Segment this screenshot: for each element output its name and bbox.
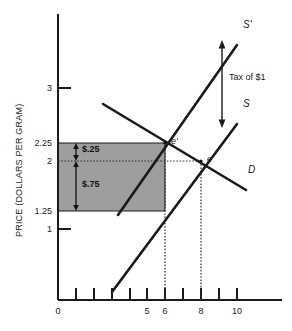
consumer-burden-label: $.25 [82,144,100,154]
y-tick-label-1: 1 [18,224,52,234]
x-tick-label-8: 8 [191,306,211,316]
x-tick-label-5: 5 [137,306,157,316]
tax-annotation-label: Tax of $1 [229,72,266,82]
point-label-e: e [207,154,212,164]
supply-demand-tax-chart: PRICE (DOLLARS PER GRAM) 3 2.25 2 1.25 1… [0,0,292,331]
y-tick-label-1-25: 1.25 [18,206,52,216]
supply-after-tax-curve [118,45,237,215]
y-tick-label-2-25: 2.25 [18,138,52,148]
tax-arrow [219,40,226,128]
tax-revenue-rectangle [59,143,166,211]
x-tick-label-0: 0 [48,306,68,316]
equilibrium-point-e [199,159,202,162]
curve-label-supply: S [243,98,250,109]
y-tick-label-3: 3 [18,83,52,93]
producer-burden-label: $.75 [82,179,100,189]
y-tick-label-2: 2 [18,156,52,166]
curve-label-demand: D [248,164,255,175]
curve-label-supply-after-tax: S' [243,19,252,30]
y-axis-title: PRICE (DOLLARS PER GRAM) [14,104,24,237]
x-tick-label-10: 10 [227,306,247,316]
equilibrium-point-e-prime [163,141,166,144]
point-label-e-prime: e' [171,136,178,146]
x-tick-label-6: 6 [155,306,175,316]
